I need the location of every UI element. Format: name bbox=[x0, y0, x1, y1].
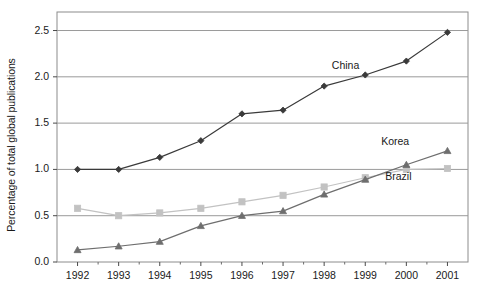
series-line bbox=[78, 32, 448, 169]
data-point-marker bbox=[198, 205, 204, 211]
data-point-marker bbox=[74, 166, 80, 172]
data-point-marker bbox=[280, 192, 286, 198]
y-axis-tick-label: 0.5 bbox=[15, 209, 49, 221]
x-axis-tick-label: 1997 bbox=[261, 269, 305, 281]
data-point-marker bbox=[239, 199, 245, 205]
series-label-brazil: Brazil bbox=[385, 170, 411, 182]
series-label-china: China bbox=[332, 59, 359, 71]
x-axis-tick-label: 1996 bbox=[220, 269, 264, 281]
data-point-marker bbox=[116, 166, 122, 172]
x-axis-tick-label: 1994 bbox=[138, 269, 182, 281]
data-point-marker bbox=[198, 138, 204, 144]
data-point-marker bbox=[280, 107, 286, 113]
y-axis-tick-label: 1.0 bbox=[15, 162, 49, 174]
x-axis-tick-label: 1993 bbox=[97, 269, 141, 281]
y-axis-tick-label: 2.5 bbox=[15, 24, 49, 36]
data-point-marker bbox=[444, 147, 451, 153]
data-point-marker bbox=[239, 111, 245, 117]
data-point-marker bbox=[444, 165, 450, 171]
data-point-marker bbox=[321, 184, 327, 190]
x-axis-tick-label: 1995 bbox=[179, 269, 223, 281]
data-point-marker bbox=[74, 205, 80, 211]
x-axis-tick-label: 2000 bbox=[384, 269, 428, 281]
x-axis-tick-label: 1998 bbox=[302, 269, 346, 281]
series-label-korea: Korea bbox=[381, 135, 409, 147]
chart-figure: Percentage of total global publications … bbox=[0, 0, 487, 290]
series-china bbox=[74, 29, 450, 172]
data-point-marker bbox=[116, 213, 122, 219]
data-point-marker bbox=[321, 83, 327, 89]
data-point-marker bbox=[157, 210, 163, 216]
series-korea bbox=[74, 147, 451, 252]
y-axis-tick-label: 1.5 bbox=[15, 116, 49, 128]
x-axis-tick-label: 1999 bbox=[343, 269, 387, 281]
x-axis-tick-label: 1992 bbox=[56, 269, 100, 281]
y-axis-tick-label: 0.0 bbox=[15, 255, 49, 267]
x-axis-tick-label: 2001 bbox=[425, 269, 469, 281]
line-chart-plot bbox=[0, 0, 487, 290]
data-point-marker bbox=[157, 154, 163, 160]
y-axis-tick-label: 2.0 bbox=[15, 70, 49, 82]
